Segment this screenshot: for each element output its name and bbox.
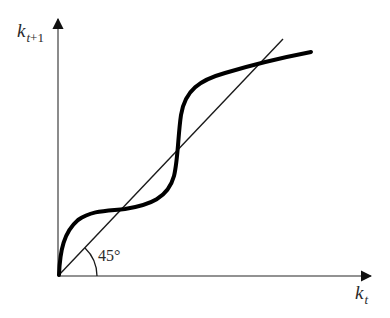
angle-label: 45° <box>98 247 120 265</box>
forty-five-degree-line <box>58 39 283 276</box>
law-of-motion-curve <box>59 52 311 275</box>
angle-arc <box>85 248 97 276</box>
phase-diagram <box>0 0 390 318</box>
x-axis-label: kt <box>355 282 368 304</box>
y-axis-label: kt+1 <box>17 20 44 42</box>
